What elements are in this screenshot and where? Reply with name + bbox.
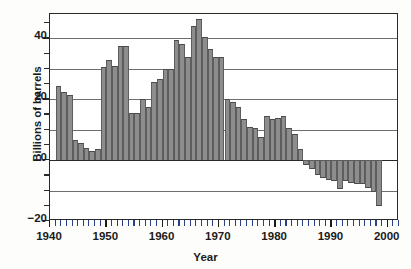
x-tick-minor [224, 220, 225, 226]
x-tick-label: 2000 [362, 230, 411, 242]
x-tick-minor [257, 220, 258, 226]
x-tick-minor [246, 220, 247, 226]
x-tick-minor [207, 220, 208, 226]
x-tick-minor [285, 220, 286, 226]
x-tick-minor [263, 220, 264, 226]
x-tick-minor [150, 220, 151, 226]
x-tick-major [105, 219, 106, 227]
x-tick-minor [195, 220, 196, 226]
x-tick-minor [359, 220, 360, 226]
x-tick-minor [201, 220, 202, 226]
x-tick-minor [252, 220, 253, 226]
x-tick-minor [72, 220, 73, 226]
x-tick-label: 1940 [24, 230, 74, 242]
x-tick-major [387, 219, 388, 227]
x-tick-minor [370, 220, 371, 226]
x-tick-minor [280, 220, 281, 226]
x-tick-minor [133, 220, 134, 226]
x-tick-minor [381, 220, 382, 226]
x-tick-minor [128, 220, 129, 226]
x-tick-minor [100, 220, 101, 226]
x-tick-label: 1970 [193, 230, 243, 242]
bar [298, 149, 304, 160]
x-tick-minor [240, 220, 241, 226]
x-tick-minor [235, 220, 236, 226]
x-tick-minor [325, 220, 326, 226]
x-tick-minor [229, 220, 230, 226]
x-tick-minor [291, 220, 292, 226]
x-tick-minor [88, 220, 89, 226]
x-tick-minor [319, 220, 320, 226]
x-tick-minor [111, 220, 112, 226]
x-tick-minor [60, 220, 61, 226]
x-tick-minor [398, 220, 399, 226]
x-tick-minor [173, 220, 174, 226]
x-tick-minor [167, 220, 168, 226]
x-tick-major [330, 219, 331, 227]
x-tick-minor [83, 220, 84, 226]
x-tick-minor [94, 220, 95, 226]
x-tick-minor [190, 220, 191, 226]
x-tick-major [274, 219, 275, 227]
x-tick-minor [302, 220, 303, 226]
x-tick-label: 1980 [249, 230, 299, 242]
x-tick-minor [77, 220, 78, 226]
x-tick-major [162, 219, 163, 227]
y-tick-label: 40 [7, 29, 47, 41]
x-tick-minor [117, 220, 118, 226]
x-tick-minor [269, 220, 270, 226]
y-tick-label: −20 [7, 212, 47, 224]
plot-area [49, 13, 398, 220]
x-tick-label: 1990 [305, 230, 355, 242]
chart-root: Billions of barrels Year −2002040 194019… [0, 0, 411, 269]
x-tick-minor [66, 220, 67, 226]
gridline [50, 191, 397, 192]
y-tick-label: 0 [7, 151, 47, 163]
x-tick-minor [145, 220, 146, 226]
x-tick-minor [392, 220, 393, 226]
x-tick-minor [336, 220, 337, 226]
x-tick-label: 1950 [80, 230, 130, 242]
bar [376, 160, 382, 206]
x-tick-minor [156, 220, 157, 226]
x-tick-minor [178, 220, 179, 226]
x-tick-minor [364, 220, 365, 226]
x-tick-minor [55, 220, 56, 226]
y-tick-label: 20 [7, 90, 47, 102]
x-tick-minor [212, 220, 213, 226]
x-tick-major [49, 219, 50, 227]
x-tick-minor [342, 220, 343, 226]
x-tick-minor [184, 220, 185, 226]
x-tick-minor [347, 220, 348, 226]
x-tick-minor [139, 220, 140, 226]
x-tick-minor [314, 220, 315, 226]
x-tick-minor [122, 220, 123, 226]
x-tick-major [218, 219, 219, 227]
x-tick-minor [308, 220, 309, 226]
x-axis-title: Year [0, 251, 411, 263]
x-tick-minor [353, 220, 354, 226]
gridline [50, 38, 397, 39]
y-axis-title: Billions of barrels [31, 29, 43, 199]
x-tick-minor [297, 220, 298, 226]
x-tick-label: 1960 [137, 230, 187, 242]
x-tick-minor [375, 220, 376, 226]
